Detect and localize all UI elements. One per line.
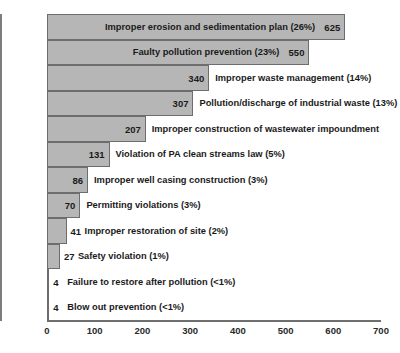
bar-category-label: Violation of PA clean streams law (5%): [116, 149, 285, 159]
bar-row: 207Improper construction of wastewater i…: [47, 116, 381, 142]
bar-value-label: 340: [188, 72, 204, 83]
bar: [47, 65, 209, 91]
y-axis-line: [0, 14, 2, 321]
bar-row: 131Violation of PA clean streams law (5%…: [47, 142, 381, 168]
bar-row: 70Permitting violations (3%): [47, 193, 381, 219]
bar-value-label: 625: [324, 21, 340, 32]
x-axis-tick-700: 700: [373, 325, 389, 336]
bar: [47, 91, 193, 117]
bar: [47, 269, 49, 295]
bar-row: 27Safety violation (1%): [47, 244, 381, 270]
bar-value-label: 4: [53, 276, 58, 287]
bar-value-label: 307: [173, 98, 189, 109]
bar-row: 41Improper restoration of site (2%): [47, 218, 381, 244]
bar-row: 4Failure to restore after pollution (<1%…: [47, 269, 381, 295]
bar-row: 625Improper erosion and sedimentation pl…: [47, 14, 381, 40]
bar-category-label: Faulty pollution prevention (23%): [133, 47, 280, 57]
bar-row: 86Improper well casing construction (3%): [47, 167, 381, 193]
bar: [47, 244, 60, 270]
bar-category-label: Improper restoration of site (2%): [85, 226, 229, 236]
x-axis-tick-400: 400: [230, 325, 246, 336]
bar-value-label: 86: [72, 174, 83, 185]
x-axis-tick-500: 500: [278, 325, 294, 336]
bar-value-label: 41: [71, 225, 82, 236]
x-axis-tick-0: 0: [44, 325, 49, 336]
bar-row: 550Faulty pollution prevention (23%): [47, 40, 381, 66]
bar: [47, 295, 49, 321]
bar-row: 340Improper waste management (14%): [47, 65, 381, 91]
bar-category-label: Blow out prevention (<1%): [67, 302, 184, 312]
x-axis-tick-200: 200: [134, 325, 150, 336]
bar-row: 4Blow out prevention (<1%): [47, 295, 381, 321]
bar-value-label: 207: [125, 123, 141, 134]
bar: [47, 218, 67, 244]
bar-value-label: 550: [289, 47, 305, 58]
bar-category-label: Improper erosion and sedimentation plan …: [105, 22, 315, 32]
x-axis-tick-300: 300: [182, 325, 198, 336]
bar-row: 307Pollution/discharge of industrial was…: [47, 91, 381, 117]
bar-category-label: Improper waste management (14%): [215, 73, 371, 83]
bar-category-label: Improper well casing construction (3%): [94, 175, 268, 185]
bar-category-label: Improper construction of wastewater impo…: [152, 124, 379, 134]
bar-category-label: Safety violation (1%): [78, 251, 169, 261]
bar-category-label: Permitting violations (3%): [86, 200, 200, 210]
bar-value-label: 27: [64, 251, 75, 262]
bar-chart: 625Improper erosion and sedimentation pl…: [0, 0, 400, 353]
bar-category-label: Failure to restore after pollution (<1%): [67, 277, 235, 287]
bar-value-label: 4: [53, 302, 58, 313]
bar-category-label: Pollution/discharge of industrial waste …: [199, 98, 397, 108]
x-axis-tick-600: 600: [325, 325, 341, 336]
x-axis-tick-100: 100: [87, 325, 103, 336]
bar-value-label: 131: [89, 149, 105, 160]
x-axis-line: [47, 320, 381, 322]
bar-value-label: 70: [65, 200, 76, 211]
